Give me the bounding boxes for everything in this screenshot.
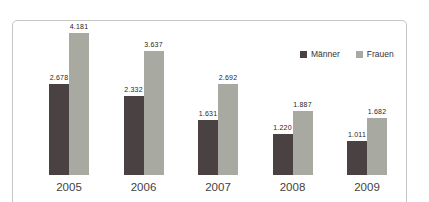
bar-männer-2008 <box>273 134 293 175</box>
axis-label-2005: 2005 <box>39 181 99 193</box>
bar-frauen-2008 <box>293 111 313 175</box>
bar-frauen-2005 <box>69 33 89 175</box>
axis-label-2008: 2008 <box>263 181 323 193</box>
value-label-frauen-2009: 1.682 <box>355 108 399 115</box>
bar-männer-2006 <box>124 96 144 175</box>
bar-frauen-2007 <box>218 84 238 175</box>
bar-frauen-2006 <box>144 51 164 175</box>
bar-frauen-2009 <box>367 118 387 175</box>
axis-label-2007: 2007 <box>188 181 248 193</box>
axis-label-2009: 2009 <box>337 181 397 193</box>
value-label-frauen-2008: 1.887 <box>281 101 325 108</box>
bar-männer-2009 <box>347 141 367 175</box>
bar-männer-2005 <box>49 84 69 175</box>
plot-area: 2.6784.1812.3323.6371.6312.6921.2201.887… <box>13 21 406 175</box>
bar-männer-2007 <box>198 120 218 175</box>
chart-frame: MännerFrauen 2.6784.1812.3323.6371.6312.… <box>12 20 407 202</box>
chart-screenshot: MännerFrauen 2.6784.1812.3323.6371.6312.… <box>0 0 429 202</box>
value-label-frauen-2007: 2.692 <box>206 74 250 81</box>
x-axis: 20052006200720082009 <box>13 175 406 199</box>
value-label-frauen-2005: 4.181 <box>57 23 101 30</box>
axis-label-2006: 2006 <box>114 181 174 193</box>
value-label-frauen-2006: 3.637 <box>132 41 176 48</box>
